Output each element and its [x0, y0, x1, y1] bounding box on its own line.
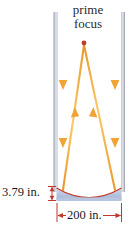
prime-focus-label: prime focus: [60, 3, 116, 31]
prime-focus-line-2: focus: [60, 17, 116, 31]
arrow-down-left-lower-icon: [59, 138, 68, 148]
arrow-down-right-upper-icon: [111, 80, 120, 90]
mirror-body: [57, 188, 122, 201]
prime-focus-point: [82, 41, 87, 46]
arrow-down-left-upper-icon: [59, 80, 68, 90]
arrow-up-right-icon: [89, 107, 97, 118]
diameter-measurement-label: 200 in.: [66, 209, 103, 223]
light-rays: [63, 12, 115, 190]
diameter-arrow-left-icon: [57, 213, 63, 218]
mirror-base-plate: [57, 198, 122, 202]
prime-focus-line-1: prime: [60, 3, 116, 17]
reflected-ray-left: [63, 45, 84, 190]
diameter-arrow-right-icon: [116, 213, 122, 218]
depth-arrow-down-icon: [50, 196, 55, 200]
parabolic-mirror-figure: prime focus 3.79 in. 200 in.: [0, 0, 129, 230]
reflected-ray-right: [84, 45, 115, 190]
tube-wall-left-icon: [54, 12, 58, 192]
depth-measurement-label: 3.79 in.: [2, 186, 40, 200]
tube-wall-right-icon: [121, 12, 125, 192]
arrow-down-right-lower-icon: [111, 138, 120, 148]
ray-arrowheads: [59, 80, 120, 148]
arrow-up-left-icon: [71, 107, 79, 118]
